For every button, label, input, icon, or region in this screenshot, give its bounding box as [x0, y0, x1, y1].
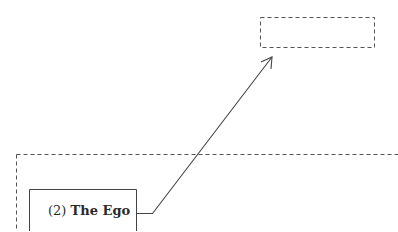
ego-node-number: (2)	[48, 203, 66, 218]
diagram-canvas	[0, 0, 398, 231]
outer-dashed-frame	[17, 155, 398, 232]
empty-dashed-box	[261, 18, 375, 48]
connector-arrow	[137, 57, 273, 214]
ego-node-label: (2) The Ego	[48, 203, 130, 218]
ego-node-title: The Ego	[71, 203, 131, 218]
